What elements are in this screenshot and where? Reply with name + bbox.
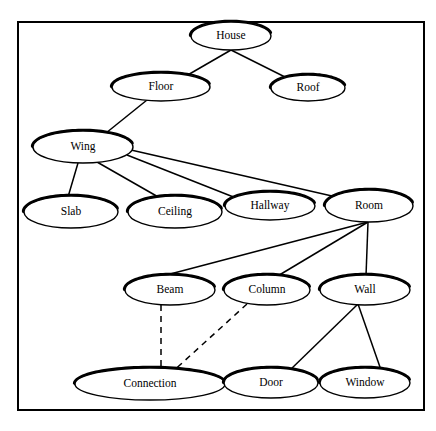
edge-floor-wing: [106, 100, 147, 133]
node-roof[interactable]: Roof: [271, 75, 345, 101]
node-slab[interactable]: Slab: [24, 196, 118, 228]
node-wing[interactable]: Wing: [33, 131, 133, 163]
hierarchy-diagram: HouseFloorRoofWingSlabCeilingHallwayRoom…: [0, 0, 436, 431]
edge-wing-slab: [68, 163, 78, 197]
node-label-beam: Beam: [157, 283, 184, 295]
node-label-slab: Slab: [61, 205, 82, 217]
node-house[interactable]: House: [191, 22, 271, 50]
node-room[interactable]: Room: [325, 190, 413, 222]
node-beam[interactable]: Beam: [125, 275, 215, 305]
edge-wall-door: [289, 304, 358, 371]
edge-room-beam: [155, 222, 368, 278]
node-wall[interactable]: Wall: [320, 275, 410, 305]
edge-wall-window: [358, 304, 381, 370]
node-label-house: House: [216, 29, 245, 41]
node-label-hallway: Hallway: [251, 199, 290, 212]
node-label-column: Column: [248, 283, 285, 295]
edge-wing-room: [131, 150, 332, 196]
edge-house-floor: [186, 50, 231, 76]
node-hallway[interactable]: Hallway: [225, 192, 315, 220]
node-label-ceiling: Ceiling: [158, 205, 192, 218]
node-window[interactable]: Window: [320, 368, 410, 398]
node-label-roof: Roof: [297, 81, 320, 93]
diagram-canvas: HouseFloorRoofWingSlabCeilingHallwayRoom…: [0, 0, 436, 431]
node-connection[interactable]: Connection: [75, 368, 225, 400]
node-ceiling[interactable]: Ceiling: [128, 196, 222, 228]
node-label-floor: Floor: [149, 80, 174, 92]
node-label-window: Window: [345, 376, 385, 388]
edge-room-column: [276, 222, 368, 277]
node-label-door: Door: [259, 376, 283, 388]
node-label-wing: Wing: [70, 140, 95, 153]
edge-room-wall: [366, 222, 368, 276]
node-label-room: Room: [355, 199, 383, 211]
node-door[interactable]: Door: [224, 368, 318, 398]
node-label-connection: Connection: [123, 377, 176, 389]
node-floor[interactable]: Floor: [112, 73, 210, 101]
node-column[interactable]: Column: [224, 275, 310, 305]
edge-house-roof: [231, 50, 287, 78]
edge-column-connection: [170, 304, 247, 374]
nodes-layer: HouseFloorRoofWingSlabCeilingHallwayRoom…: [24, 22, 413, 400]
node-label-wall: Wall: [354, 283, 375, 295]
edge-wing-ceiling: [97, 162, 160, 198]
